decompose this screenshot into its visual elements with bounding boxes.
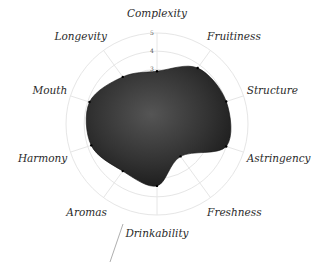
- tick-label: 5: [150, 29, 154, 36]
- data-point: [225, 145, 227, 147]
- data-point: [179, 155, 181, 157]
- radial-ticks: 345: [150, 29, 154, 72]
- axis-label-longevity: Longevity: [53, 30, 108, 42]
- data-point: [122, 76, 124, 78]
- tick-label: 3: [150, 65, 154, 72]
- axis-label-astringency: Astringency: [246, 152, 312, 164]
- data-point: [196, 67, 198, 69]
- axis-label-drinkability: Drinkability: [124, 227, 189, 239]
- axis-label-harmony: Harmony: [17, 152, 68, 164]
- data-point: [88, 101, 90, 103]
- axis-label-fruitiness: Fruitiness: [206, 30, 261, 42]
- decorative-stroke: [110, 224, 123, 262]
- data-point: [225, 100, 227, 102]
- axis-label-mouth: Mouth: [31, 84, 67, 96]
- data-point: [156, 70, 158, 72]
- radar-chart: 345 ComplexityFruitinessStructureAstring…: [0, 0, 324, 267]
- data-point: [122, 170, 124, 172]
- data-point: [90, 144, 92, 146]
- axis-label-aromas: Aromas: [65, 206, 107, 218]
- data-area: [86, 66, 231, 186]
- axis-label-structure: Structure: [247, 84, 298, 96]
- tick-label: 4: [150, 47, 154, 54]
- axis-label-freshness: Freshness: [206, 206, 262, 218]
- axis-label-complexity: Complexity: [127, 7, 188, 19]
- data-point: [156, 185, 158, 187]
